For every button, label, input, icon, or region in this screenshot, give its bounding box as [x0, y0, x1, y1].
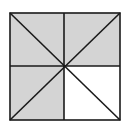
- fraction-square-diagram: [0, 0, 131, 129]
